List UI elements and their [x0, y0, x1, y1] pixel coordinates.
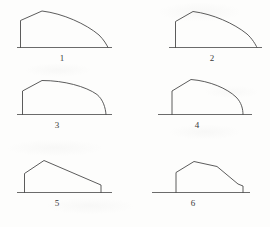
figure-5-label: 5 [55, 198, 60, 208]
figure-1: 1 [17, 11, 112, 63]
figure-5: 5 [17, 161, 112, 209]
figure-2-outline [176, 12, 258, 48]
figure-2: 2 [169, 12, 262, 64]
figure-4: 4 [158, 80, 252, 131]
figure-3: 3 [17, 81, 112, 131]
figure-3-outline [23, 81, 107, 115]
figure-6: 6 [152, 162, 250, 209]
figure-1-outline [21, 11, 109, 48]
figure-5-outline [25, 161, 102, 193]
figure-2-label: 2 [210, 53, 215, 63]
figure-1-label: 1 [60, 53, 65, 63]
figure-4-outline [172, 80, 243, 115]
figure-6-outline [176, 162, 243, 193]
figure-4-label: 4 [195, 120, 200, 130]
figure-6-label: 6 [191, 198, 196, 208]
figure-3-label: 3 [55, 120, 60, 130]
figure-sheet: 1 2 3 4 5 6 [0, 0, 270, 227]
